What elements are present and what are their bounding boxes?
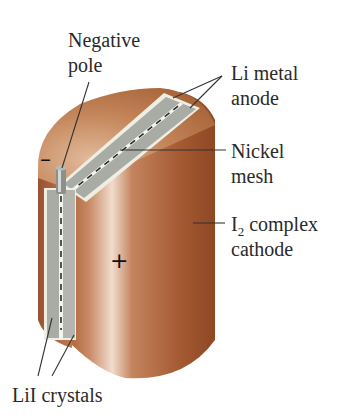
svg-text:I2 complex: I2 complex [231, 213, 318, 239]
anode-strip-side [44, 188, 76, 340]
label-nickel-mesh: Nickel mesh [231, 140, 285, 187]
diagram-canvas: – + Negative pole Li metal anode Nickel … [0, 0, 353, 420]
negative-pole-pin [56, 166, 66, 195]
label-lii-crystals: LiI crystals [12, 384, 103, 407]
svg-text:Negative: Negative [68, 29, 140, 52]
svg-text:Li metal: Li metal [231, 62, 299, 84]
svg-text:Nickel: Nickel [231, 140, 285, 162]
label-li-anode: Li metal anode [231, 62, 299, 109]
svg-text:cathode: cathode [231, 238, 293, 260]
positive-sign: + [110, 248, 128, 273]
negative-sign: – [40, 146, 51, 171]
svg-text:pole: pole [68, 54, 103, 77]
svg-text:mesh: mesh [231, 165, 273, 187]
battery-diagram: – + Negative pole Li metal anode Nickel … [0, 0, 353, 420]
label-cathode: I2 complex cathode [231, 213, 318, 260]
svg-text:anode: anode [231, 87, 279, 109]
label-negative-pole: Negative pole [68, 29, 140, 77]
